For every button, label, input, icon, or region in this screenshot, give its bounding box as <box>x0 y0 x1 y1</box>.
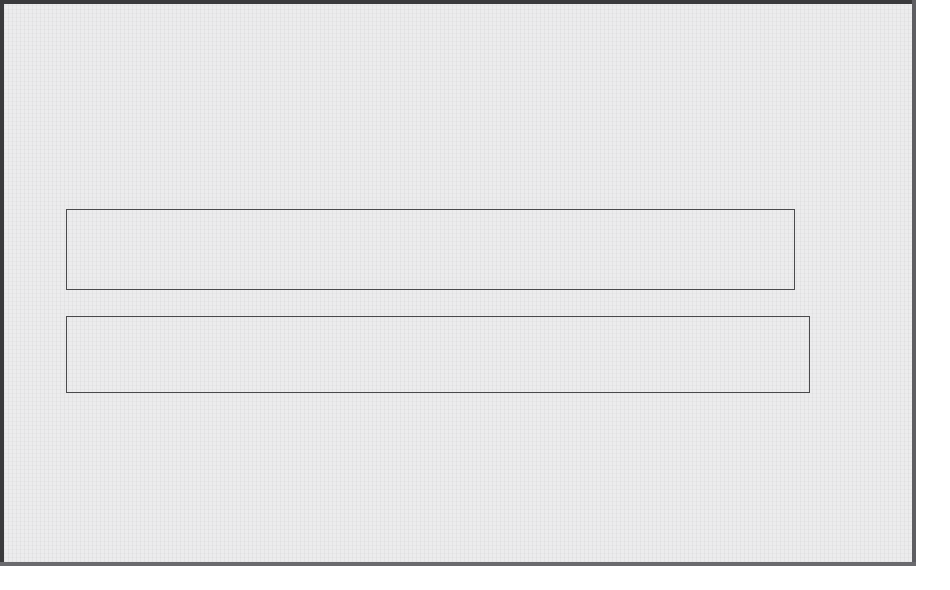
frame-border-left <box>0 0 4 566</box>
page-margin-right <box>916 0 950 590</box>
area-stacked-bar <box>66 316 810 393</box>
frame-border-top <box>0 0 916 4</box>
page-margin-bottom <box>0 566 950 590</box>
population-stacked-bar <box>66 209 795 290</box>
figure-canvas <box>0 0 950 590</box>
